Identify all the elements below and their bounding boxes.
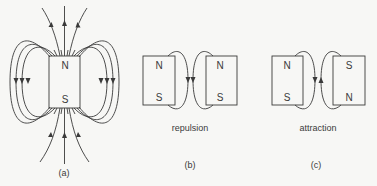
arrow-up-icon — [49, 22, 54, 27]
field-line — [321, 51, 341, 108]
panel-a — [10, 6, 119, 164]
caption-c: (c) — [311, 160, 322, 170]
arrow-down-icon — [20, 78, 25, 84]
arrow-up-icon — [76, 132, 81, 137]
north-pole-label: N — [61, 60, 68, 71]
left-magnet-bottom-label: S — [284, 92, 291, 103]
arrow-down-icon — [191, 77, 196, 83]
right-magnet-bottom-label: N — [345, 92, 352, 103]
arrow-up-icon — [62, 20, 67, 26]
arrow-down-icon — [26, 78, 31, 84]
arrow-up-icon — [319, 77, 324, 83]
caption-a: (a) — [59, 168, 70, 178]
left-magnet-bottom-label: S — [156, 92, 163, 103]
arrow-up-icon — [48, 132, 53, 137]
magnetic-field-diagram: N S (a) N S N S repulsion (b) N S S N at… — [0, 0, 377, 186]
repulsion-label: repulsion — [172, 123, 209, 133]
field-line — [193, 51, 213, 108]
left-magnet-top-label: N — [155, 60, 162, 71]
attraction-label: attraction — [299, 123, 336, 133]
arrow-down-icon — [14, 78, 19, 84]
south-pole-label: S — [62, 94, 69, 105]
right-magnet-top-label: N — [216, 60, 223, 71]
arrow-up-icon — [76, 22, 81, 28]
arrow-up-icon — [62, 132, 67, 138]
arrow-down-icon — [99, 78, 104, 84]
left-magnet-top-label: N — [283, 60, 290, 71]
right-magnet-top-label: S — [346, 60, 353, 71]
arrow-down-icon — [105, 78, 110, 84]
field-line — [168, 51, 188, 108]
field-line — [295, 51, 315, 108]
right-magnet-bottom-label: S — [217, 92, 224, 103]
caption-b: (b) — [185, 160, 196, 170]
arrow-down-icon — [313, 77, 318, 83]
arrow-down-icon — [111, 78, 116, 84]
arrow-down-icon — [186, 77, 191, 83]
